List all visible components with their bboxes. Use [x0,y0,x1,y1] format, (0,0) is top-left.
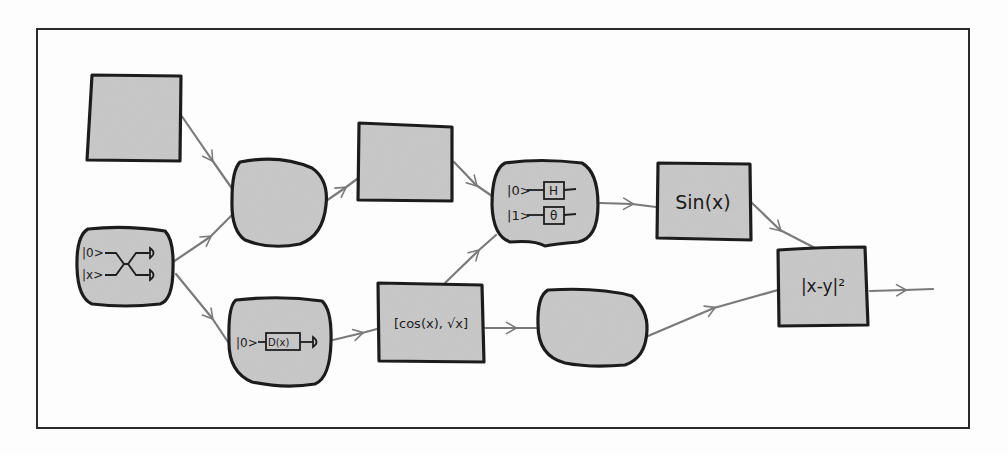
edge-n9-n10 [648,308,714,336]
node-n6-circuit-blob[interactable] [77,227,173,306]
edge-n5-n10 [751,202,780,230]
edge-n6-n7 [176,274,212,318]
n7-gate-d: D(x) [268,337,290,348]
diagram-canvas: |0> |1> H θ Sin(x) |0> |x> |0> D(x) [cos… [0,0,1008,455]
edge-n2-n3 [326,188,345,201]
n5-label: Sin(x) [675,191,730,213]
edge-n3-n4 [454,162,476,185]
n8-label: [cos(x), √x] [394,316,468,331]
node-n4-quantum-blob[interactable] [492,161,598,247]
edge-n7-n8 [333,333,362,340]
n4-gate-theta: θ [550,209,557,223]
edge-n4-n5 [600,203,632,204]
edge-n10-output [870,290,905,291]
n4-gate-h: H [549,184,558,198]
n7-qubit-0: |0> [236,336,258,350]
node-n9-blob[interactable] [538,289,647,366]
edge-n8-n4 [445,251,478,283]
n6-qubit-0: |0> [82,246,104,260]
n6-qubit-1: |x> [82,268,103,282]
n4-qubit-1: |1> [507,208,531,223]
edge-n1-n2 [181,115,212,160]
node-n2-blob[interactable] [232,159,327,246]
n4-qubit-0: |0> [507,183,531,198]
n10-label: |x-y|² [801,276,845,296]
node-n3-rect[interactable] [358,123,452,201]
node-n1-square[interactable] [87,75,181,161]
edge-n6-n2 [173,237,210,262]
